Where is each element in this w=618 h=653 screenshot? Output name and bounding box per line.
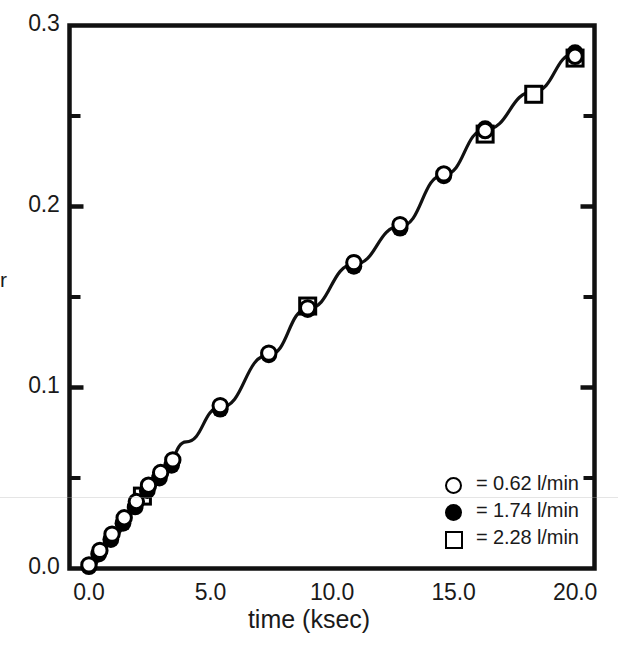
x-tick-label: 10.0 (287, 579, 377, 606)
legend-item-label: = 2.28 l/min (476, 526, 579, 549)
x-tick-label: 5.0 (165, 579, 255, 606)
legend-item: = 2.28 l/min (443, 524, 579, 551)
legend-item-label: = 0.62 l/min (476, 472, 579, 495)
y-tick-label: 0.0 (4, 553, 60, 580)
legend-item-label: = 1.74 l/min (476, 499, 579, 522)
axis-ticks (70, 116, 595, 478)
plot-area (0, 0, 618, 653)
open-circle-icon (443, 473, 465, 495)
legend: = 0.62 l/min= 1.74 l/min= 2.28 l/min (443, 470, 579, 551)
x-tick-label: 20.0 (530, 579, 618, 606)
x-axis-title: time (ksec) (0, 605, 618, 634)
open-circle-glyph (445, 477, 462, 494)
open-square-icon (443, 527, 465, 549)
x-tick-label: 15.0 (409, 579, 499, 606)
legend-item: = 1.74 l/min (443, 497, 579, 524)
chart-figure: r 0.00.10.20.3 0.05.010.015.020.0 time (… (0, 0, 618, 653)
legend-item: = 0.62 l/min (443, 470, 579, 497)
filled-circle-glyph (445, 504, 462, 521)
x-tick-label: 0.0 (44, 579, 134, 606)
y-tick-label: 0.1 (4, 372, 60, 399)
y-tick-label: 0.2 (4, 191, 60, 218)
open-square-glyph (445, 531, 463, 549)
filled-circle-icon (443, 500, 465, 522)
y-tick-label: 0.3 (4, 10, 60, 37)
